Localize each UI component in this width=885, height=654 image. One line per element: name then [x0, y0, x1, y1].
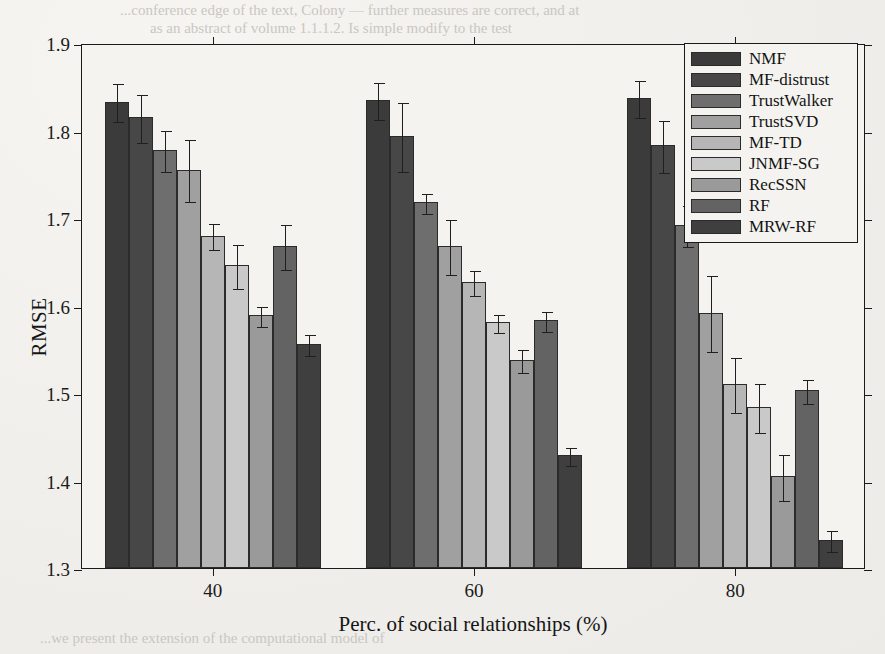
- error-bar: [735, 358, 736, 414]
- bar: [486, 322, 510, 568]
- bar: [297, 344, 321, 568]
- error-bar: [450, 220, 451, 276]
- x-tick-mark: [213, 568, 214, 576]
- bar: [201, 236, 225, 569]
- legend-swatch: [691, 157, 741, 171]
- y-tick-mark-right: [864, 45, 872, 46]
- legend-swatch: [691, 52, 741, 66]
- legend-item[interactable]: TrustSVD: [691, 111, 851, 132]
- x-axis-label: Perc. of social relationships (%): [81, 612, 865, 637]
- legend-swatch: [691, 220, 741, 234]
- error-bar: [285, 225, 286, 271]
- error-bar: [402, 103, 403, 173]
- x-tick-mark-top: [474, 37, 475, 45]
- error-bar: [663, 121, 664, 174]
- legend-item[interactable]: TrustWalker: [691, 90, 851, 111]
- error-bar: [117, 84, 118, 123]
- bar: [462, 282, 486, 568]
- error-bar: [261, 307, 262, 328]
- error-bar: [426, 194, 427, 215]
- y-tick-mark-right: [864, 308, 872, 309]
- x-tick-label: 60: [465, 580, 484, 602]
- y-tick-mark-right: [864, 570, 872, 571]
- legend-swatch: [691, 199, 741, 213]
- bar: [414, 202, 438, 568]
- y-tick-label: 1.7: [46, 209, 70, 231]
- error-bar: [831, 531, 832, 554]
- y-tick-label: 1.9: [46, 34, 70, 56]
- legend-label: JNMF-SG: [749, 155, 820, 172]
- legend-label: TrustSVD: [749, 113, 818, 130]
- bar: [627, 98, 651, 568]
- bar: [534, 320, 558, 568]
- y-tick-mark: [74, 395, 82, 396]
- x-tick-label: 40: [203, 580, 222, 602]
- bar: [153, 150, 177, 568]
- error-bar: [237, 245, 238, 291]
- error-bar: [378, 83, 379, 122]
- legend-label: NMF: [749, 50, 786, 67]
- legend-label: RF: [749, 197, 770, 214]
- legend-label: TrustWalker: [749, 92, 833, 109]
- legend-swatch: [691, 178, 741, 192]
- error-bar: [189, 140, 190, 203]
- y-tick-label: 1.3: [46, 559, 70, 581]
- bar: [558, 455, 582, 568]
- legend-item[interactable]: RF: [691, 195, 851, 216]
- legend-swatch: [691, 73, 741, 87]
- bar: [651, 145, 675, 568]
- legend-item[interactable]: MRW-RF: [691, 216, 851, 237]
- y-tick-mark: [74, 483, 82, 484]
- error-bar: [474, 271, 475, 297]
- bar: [105, 102, 129, 568]
- y-tick-mark: [74, 45, 82, 46]
- bar: [249, 315, 273, 568]
- bar: [510, 360, 534, 568]
- x-tick-mark: [474, 568, 475, 576]
- y-tick-mark: [74, 220, 82, 221]
- bar: [177, 170, 201, 568]
- error-bar: [213, 224, 214, 250]
- chart-figure: RMSE Perc. of social relationships (%) 1…: [0, 0, 885, 654]
- chart-legend: NMFMF-distrustTrustWalkerTrustSVDMF-TDJN…: [684, 43, 858, 243]
- y-tick-mark-right: [864, 395, 872, 396]
- bar: [390, 136, 414, 568]
- legend-label: MF-distrust: [749, 71, 829, 88]
- legend-swatch: [691, 136, 741, 150]
- y-tick-label: 1.8: [46, 122, 70, 144]
- y-tick-label: 1.5: [46, 384, 70, 406]
- y-tick-label: 1.4: [46, 472, 70, 494]
- legend-swatch: [691, 94, 741, 108]
- error-bar: [807, 380, 808, 405]
- legend-item[interactable]: RecSSN: [691, 174, 851, 195]
- legend-item[interactable]: MF-distrust: [691, 69, 851, 90]
- legend-item[interactable]: NMF: [691, 48, 851, 69]
- error-bar: [783, 455, 784, 502]
- legend-swatch: [691, 115, 741, 129]
- y-tick-mark: [74, 133, 82, 134]
- y-tick-mark: [74, 308, 82, 309]
- y-tick-mark: [74, 570, 82, 571]
- error-bar: [141, 95, 142, 144]
- error-bar: [546, 312, 547, 333]
- legend-item[interactable]: MF-TD: [691, 132, 851, 153]
- error-bar: [711, 276, 712, 353]
- legend-label: MRW-RF: [749, 218, 816, 235]
- legend-label: MF-TD: [749, 134, 802, 151]
- error-bar: [165, 131, 166, 173]
- bar: [129, 117, 153, 568]
- bar: [225, 265, 249, 568]
- y-tick-mark-right: [864, 133, 872, 134]
- bar: [366, 100, 390, 568]
- y-tick-mark-right: [864, 220, 872, 221]
- bar: [675, 225, 699, 568]
- y-tick-mark-right: [864, 483, 872, 484]
- y-tick-label: 1.6: [46, 297, 70, 319]
- error-bar: [309, 335, 310, 358]
- error-bar: [570, 448, 571, 467]
- bar: [273, 246, 297, 568]
- legend-item[interactable]: JNMF-SG: [691, 153, 851, 174]
- bar: [438, 246, 462, 568]
- legend-label: RecSSN: [749, 176, 807, 193]
- x-tick-label: 80: [726, 580, 745, 602]
